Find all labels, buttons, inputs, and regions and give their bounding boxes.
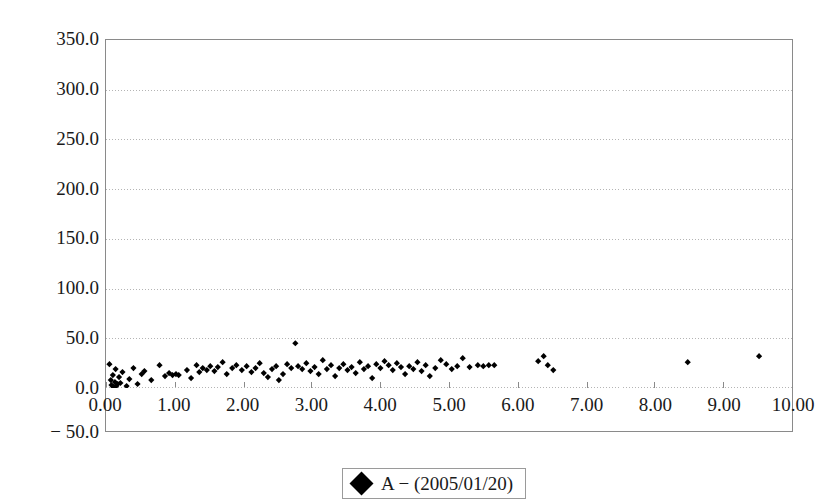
data-point-marker <box>311 364 317 370</box>
data-point-marker <box>390 367 396 373</box>
y-axis-tick-label: 250.0 <box>56 129 99 148</box>
data-point-marker <box>373 361 379 367</box>
diamond-marker-icon <box>349 471 373 495</box>
data-point-marker <box>353 370 359 376</box>
data-point-marker <box>377 365 383 371</box>
data-point-marker <box>328 362 334 368</box>
data-point-marker <box>280 371 286 377</box>
data-point-marker <box>541 353 547 359</box>
data-point-marker <box>288 365 294 371</box>
data-points-layer <box>106 40 792 388</box>
plot-area <box>105 39 793 388</box>
legend-label: A − (2005/01/20) <box>381 474 513 493</box>
data-point-marker <box>398 364 404 370</box>
data-point-marker <box>480 363 486 369</box>
data-point-marker <box>292 340 298 346</box>
data-point-marker <box>414 359 420 365</box>
data-point-marker <box>386 362 392 368</box>
data-point-marker <box>340 361 346 367</box>
data-point-marker <box>466 364 472 370</box>
data-point-marker <box>545 362 551 368</box>
data-point-marker <box>460 355 466 361</box>
data-point-marker <box>418 368 424 374</box>
data-point-marker <box>265 374 271 380</box>
data-point-marker <box>449 366 455 372</box>
x-axis-tick-labels: 0.001.002.003.004.005.006.007.008.009.00… <box>0 395 837 423</box>
data-point-marker <box>261 370 267 376</box>
data-point-marker <box>284 361 290 367</box>
data-point-marker <box>276 377 282 383</box>
data-point-marker <box>475 362 481 368</box>
y-axis-tick-label: 50.0 <box>66 328 99 347</box>
data-point-marker <box>113 366 119 372</box>
data-point-marker <box>156 362 162 368</box>
y-axis-tick-label: 200.0 <box>56 179 99 198</box>
data-point-marker <box>134 381 140 387</box>
data-point-marker <box>357 359 363 365</box>
data-point-marker <box>438 357 444 363</box>
data-point-marker <box>123 383 129 388</box>
data-point-marker <box>756 353 762 359</box>
data-point-marker <box>369 375 375 381</box>
data-point-marker <box>307 368 313 374</box>
data-point-marker <box>193 362 199 368</box>
data-point-marker <box>220 359 226 365</box>
y-axis-tick-label: 300.0 <box>56 79 99 98</box>
data-point-marker <box>685 359 691 365</box>
data-point-marker <box>257 360 263 366</box>
data-point-marker <box>252 365 258 371</box>
data-point-marker <box>486 362 492 368</box>
data-point-marker <box>320 357 326 363</box>
data-point-marker <box>324 366 330 372</box>
y-axis-tick-label: 150.0 <box>56 228 99 247</box>
data-point-marker <box>244 363 250 369</box>
data-point-marker <box>443 361 449 367</box>
data-point-marker <box>148 377 154 383</box>
data-point-marker <box>106 361 112 367</box>
data-point-marker <box>248 369 254 375</box>
data-point-marker <box>119 369 125 375</box>
data-point-marker <box>184 367 190 373</box>
data-point-marker <box>316 371 322 377</box>
x-axis-tick-label: 10.00 <box>753 395 833 414</box>
data-point-marker <box>116 374 122 380</box>
y-axis-tick-labels: 350.0300.0250.0200.0150.0100.050.00.0− 5… <box>0 0 99 499</box>
data-point-marker <box>303 360 309 366</box>
data-point-marker <box>332 373 338 379</box>
data-point-marker <box>130 365 136 371</box>
y-axis-tick-label: 100.0 <box>56 278 99 297</box>
data-point-marker <box>427 373 433 379</box>
data-point-marker <box>402 371 408 377</box>
data-point-marker <box>423 362 429 368</box>
data-point-marker <box>432 365 438 371</box>
chart-legend: A − (2005/01/20) <box>342 468 526 499</box>
y-axis-tick-label: 350.0 <box>56 29 99 48</box>
data-point-marker <box>550 367 556 373</box>
data-point-marker <box>126 376 132 382</box>
y-axis-tick-label: − 50.0 <box>50 422 99 441</box>
data-point-marker <box>239 367 245 373</box>
data-point-marker <box>188 375 194 381</box>
data-point-marker <box>535 358 541 364</box>
data-point-marker <box>336 365 342 371</box>
data-point-marker <box>394 360 400 366</box>
data-point-marker <box>381 358 387 364</box>
data-point-marker <box>224 371 230 377</box>
data-point-marker <box>454 363 460 369</box>
data-point-marker <box>491 362 497 368</box>
scatter-chart-figure: 350.0300.0250.0200.0150.0100.050.00.0− 5… <box>0 0 837 499</box>
